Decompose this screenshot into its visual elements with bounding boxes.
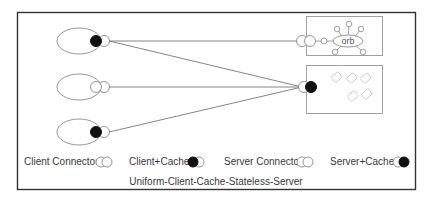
cache-server-box [307, 66, 383, 114]
server-cache-icon [306, 82, 317, 93]
svg-text:Client+Cache:: Client+Cache: [129, 156, 192, 167]
client-cache-icon [91, 127, 102, 138]
server-cache-icon [399, 157, 409, 167]
rest-style-diagram: orb Client Connector: Client+Cache: Serv… [0, 0, 431, 202]
legend-item-client-connector: Client Connector: [24, 156, 112, 167]
orb-server: orb [297, 17, 383, 56]
svg-text:Server Connector:: Server Connector: [224, 156, 305, 167]
client-connector-icon [102, 157, 112, 167]
client-cache-icon [188, 157, 198, 167]
svg-text:Server+Cache:: Server+Cache: [330, 156, 397, 167]
diagram-caption: Uniform-Client-Cache-Stateless-Server [129, 176, 303, 187]
legend-item-server-cache: Server+Cache: [330, 156, 409, 167]
client-connector-icon [91, 82, 102, 93]
cache-server [299, 66, 383, 114]
orb-label: orb [341, 36, 354, 46]
legend-item-server-connector: Server Connector: [224, 156, 313, 167]
server-connector-icon [305, 36, 316, 47]
svg-text:Client Connector:: Client Connector: [24, 156, 101, 167]
client-cache-icon [91, 36, 102, 47]
legend-item-client-cache: Client+Cache: [129, 156, 204, 167]
server-connector-icon [303, 157, 313, 167]
orb-port-icon [321, 38, 327, 44]
